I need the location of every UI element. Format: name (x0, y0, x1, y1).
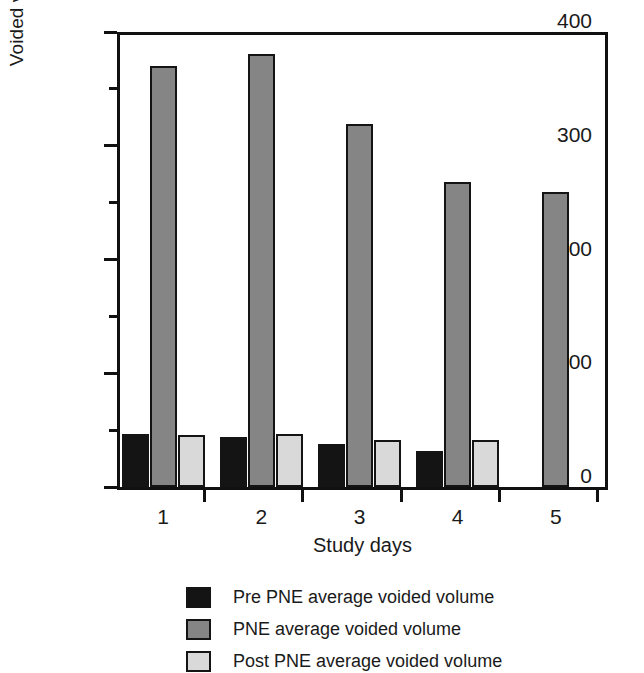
x-axis-tick (400, 490, 403, 502)
y-axis-tick-label: 300 (557, 123, 592, 147)
x-axis-tick-label: 3 (354, 505, 366, 529)
x-axis-tick-label: 4 (452, 505, 464, 529)
y-axis-tick-label: 400 (557, 9, 592, 33)
x-axis-tick-label: 1 (157, 505, 169, 529)
bar-post-day-4 (472, 440, 499, 487)
y-axis-tick-label: 0 (580, 464, 592, 488)
bar-pre-day-2 (220, 437, 247, 487)
y-axis-tick-major (104, 372, 117, 375)
bar-pre-day-3 (318, 444, 345, 487)
bar-pne-day-2 (248, 54, 275, 487)
x-axis-tick (301, 490, 304, 502)
x-axis-tick-label: 2 (255, 505, 267, 529)
axis-right-spine (605, 32, 608, 490)
y-axis-tick-major (104, 486, 117, 489)
x-axis-tick-label: 5 (550, 505, 562, 529)
legend-label: Pre PNE average voided volume (233, 587, 494, 608)
bar-post-day-1 (178, 435, 205, 487)
axis-left-spine (117, 32, 120, 490)
axis-top-spine (117, 32, 608, 35)
y-axis-tick-major (104, 31, 117, 34)
bar-pre-day-4 (416, 451, 443, 487)
y-axis-tick-minor (109, 87, 117, 90)
bar-pne-day-5 (542, 192, 569, 487)
y-axis-title-label: Voided volume (ml) (0, 0, 34, 154)
bar-pne-day-3 (346, 124, 373, 487)
legend-swatch-pne (186, 619, 211, 640)
x-axis-tick (203, 490, 206, 502)
y-axis-tick-major (104, 144, 117, 147)
y-axis-tick-minor (109, 201, 117, 204)
bar-post-day-2 (276, 434, 303, 487)
bar-pne-day-4 (444, 182, 471, 487)
y-axis-tick-minor (109, 315, 117, 318)
x-axis-tick (498, 490, 501, 502)
bar-pre-day-1 (122, 434, 149, 487)
legend-item: Pre PNE average voided volume (186, 582, 606, 612)
legend-swatch-pre (186, 587, 211, 608)
y-axis-tick-minor (109, 429, 117, 432)
axis-bottom-spine (117, 487, 608, 490)
legend-item: PNE average voided volume (186, 614, 606, 644)
y-axis-tick-major (104, 258, 117, 261)
y-axis-title: Voided volume (ml) (0, 0, 34, 154)
plot-area: 0100200300400 12345 (117, 32, 608, 490)
bar-pne-day-1 (150, 66, 177, 487)
x-axis-tick (596, 490, 599, 502)
x-axis-title: Study days (117, 534, 608, 557)
legend-item: Post PNE average voided volume (186, 646, 606, 673)
bar-post-day-3 (374, 440, 401, 487)
legend-swatch-post (186, 651, 211, 672)
legend-label: PNE average voided volume (233, 619, 461, 640)
bar-chart-figure: Voided volume (ml) 0100200300400 12345 S… (0, 0, 644, 673)
chart-legend: Pre PNE average voided volumePNE average… (186, 582, 606, 673)
legend-label: Post PNE average voided volume (233, 651, 502, 672)
